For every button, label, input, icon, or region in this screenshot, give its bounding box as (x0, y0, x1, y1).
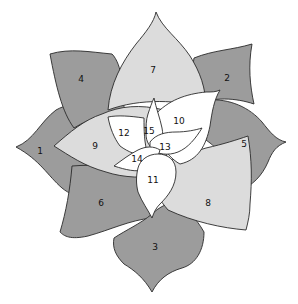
petal-label-14: 14 (131, 154, 143, 164)
petal-label-5: 5 (241, 139, 247, 149)
petal-label-6: 6 (98, 198, 104, 208)
petal-label-12: 12 (118, 128, 129, 138)
petal-label-4: 4 (78, 74, 84, 84)
petal-label-8: 8 (205, 198, 211, 208)
petal-label-10: 10 (173, 116, 185, 126)
petal-label-13: 13 (159, 142, 170, 152)
petal-label-3: 3 (152, 242, 158, 252)
petal-label-9: 9 (92, 141, 98, 151)
petal-label-1: 1 (37, 146, 43, 156)
petal-label-2: 2 (224, 73, 230, 83)
petal-label-11: 11 (147, 175, 158, 185)
petal-label-7: 7 (150, 65, 156, 75)
flower-diagram: 1 2 3 4 5 6 7 8 9 10 11 12 13 14 15 (0, 0, 298, 304)
petal-label-15: 15 (143, 126, 154, 136)
